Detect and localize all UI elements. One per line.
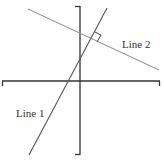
perpendicular-lines-diagram: Line 1 Line 2 xyxy=(0,0,164,161)
line-2-label: Line 2 xyxy=(122,38,150,50)
x-axis xyxy=(2,81,160,86)
line-1-label: Line 1 xyxy=(16,107,44,119)
